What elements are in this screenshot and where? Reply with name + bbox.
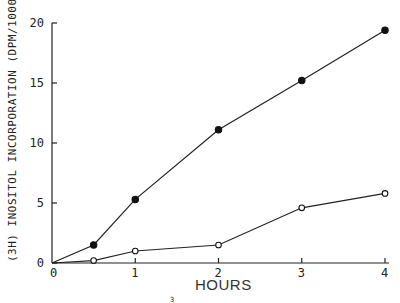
open-circle-marker bbox=[132, 248, 138, 254]
filled-circle-marker bbox=[90, 242, 96, 248]
y-tick-label: 5 bbox=[37, 196, 44, 210]
y-tick-label: 15 bbox=[30, 76, 44, 90]
open-circle-marker bbox=[382, 191, 388, 197]
data-series bbox=[52, 27, 388, 263]
filled-circle-marker bbox=[382, 27, 388, 33]
y-axis-title: (3H) INOSITOL INCORPORATION (DPM/1000) bbox=[6, 0, 19, 262]
open-circle-marker bbox=[299, 205, 305, 211]
filled-circle-marker bbox=[132, 196, 138, 202]
y-tick-label: 20 bbox=[30, 16, 44, 30]
x-tick-label: 4 bbox=[381, 266, 388, 280]
tick-labels: 0123405101520 bbox=[30, 16, 389, 280]
line-chart: 0123405101520 HOURS (3H) INOSITOL INCORP… bbox=[0, 0, 400, 303]
open-circle-marker bbox=[216, 242, 222, 248]
x-tick-label: 0 bbox=[50, 266, 57, 280]
y-tick-label: 0 bbox=[37, 256, 44, 270]
y-tick-label: 10 bbox=[30, 136, 44, 150]
x-tick-label: 3 bbox=[298, 266, 305, 280]
series-line bbox=[52, 193, 385, 263]
open-circle-marker bbox=[91, 258, 97, 264]
filled-circle-marker bbox=[299, 77, 305, 83]
filled-circle-marker bbox=[215, 127, 221, 133]
footnote-mark: 3 bbox=[170, 296, 174, 303]
series-line bbox=[52, 30, 385, 263]
x-tick-label: 1 bbox=[131, 266, 138, 280]
x-axis-title: HOURS bbox=[195, 276, 252, 293]
